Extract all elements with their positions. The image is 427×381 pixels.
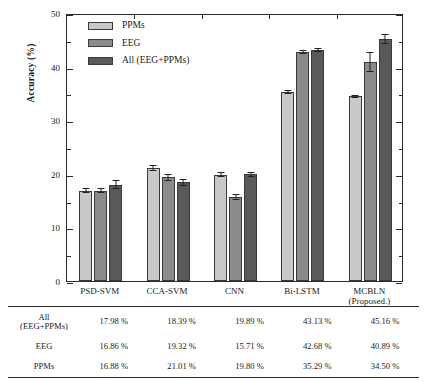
bar: [379, 39, 392, 281]
axis-tick: [67, 283, 73, 284]
error-bar: [311, 48, 324, 52]
axis-tick: [396, 229, 402, 230]
axis-tick: [399, 42, 403, 43]
legend-item[interactable]: EEG: [88, 37, 189, 51]
legend-swatch: [88, 57, 113, 65]
table-cell: 16.88 %: [80, 357, 148, 378]
table-cell: 17.98 %: [80, 307, 148, 337]
legend-item[interactable]: PPMs: [88, 19, 189, 33]
bar: [162, 177, 175, 281]
error-bar: [94, 188, 107, 193]
axis-tick: [67, 122, 73, 123]
legend-label: PPMs: [122, 21, 145, 30]
error-bar-cap: [299, 50, 306, 51]
chart-legend: PPMsEEGAll (EEG+PPMs): [88, 19, 189, 72]
axis-tick: [67, 42, 71, 43]
error-bar-cap: [180, 185, 187, 186]
error-bar-cap: [217, 172, 224, 173]
error-bar: [364, 52, 377, 72]
table-cell: 19.89 %: [216, 307, 284, 337]
error-bar-cap: [284, 93, 291, 94]
error-bar: [79, 188, 92, 194]
y-tick-label: 0: [36, 278, 60, 286]
error-bar: [214, 172, 227, 177]
legend-label: EEG: [122, 39, 140, 48]
error-bar-cap: [367, 52, 374, 53]
error-bar-cap: [82, 192, 89, 193]
table-cell: 19.80 %: [216, 357, 284, 378]
bar: [244, 174, 257, 281]
table-cell: 16.86 %: [80, 337, 148, 357]
error-bar: [229, 194, 242, 200]
y-tick-label: 40: [36, 64, 60, 72]
error-bar: [281, 90, 294, 94]
error-bar-cap: [382, 34, 389, 35]
error-bar-cap: [150, 165, 157, 166]
axis-tick: [396, 15, 402, 16]
error-bar-cap: [314, 51, 321, 52]
y-tick-label: 10: [36, 224, 60, 232]
error-bar-cap: [165, 174, 172, 175]
axis-tick: [396, 176, 402, 177]
error-bar-cap: [97, 188, 104, 189]
error-bar: [162, 174, 175, 180]
y-tick-label: 20: [36, 171, 60, 179]
table-cell: 34.50 %: [351, 357, 419, 378]
error-bar-cap: [180, 179, 187, 180]
axis-tick: [399, 203, 403, 204]
error-bar-cap: [232, 199, 239, 200]
axis-tick: [67, 203, 71, 204]
table-row: All(EEG+PPMs)17.98 %18.39 %19.89 %43.13 …: [8, 307, 419, 337]
axis-tick: [399, 95, 403, 96]
table-row: EEG16.86 %19.32 %15.71 %42.68 %40.89 %: [8, 337, 419, 357]
bar: [109, 185, 122, 281]
bar: [214, 175, 227, 281]
axis-tick: [337, 15, 338, 19]
error-bar-cap: [314, 48, 321, 49]
error-bar: [147, 165, 160, 171]
error-bar: [296, 50, 309, 54]
table-row: PPMs16.88 %21.01 %19.80 %35.29 %34.50 %: [8, 357, 419, 378]
error-bar-cap: [217, 176, 224, 177]
error-bar-cap: [284, 90, 291, 91]
axis-tick: [67, 69, 73, 70]
table-cell: 43.13 %: [283, 307, 351, 337]
table-row-label: EEG: [8, 337, 80, 357]
error-bar-cap: [97, 192, 104, 193]
error-bar: [349, 95, 362, 98]
x-category-label-line: (Proposed.): [326, 296, 412, 306]
legend-swatch: [88, 39, 113, 47]
bar: [177, 182, 190, 281]
axis-tick: [67, 15, 73, 16]
y-tick-label: 30: [36, 117, 60, 125]
axis-tick: [396, 69, 402, 70]
error-bar-line: [370, 52, 371, 72]
axis-tick: [399, 149, 403, 150]
error-bar-cap: [382, 43, 389, 44]
y-tick-label: 50: [36, 10, 60, 18]
legend-item[interactable]: All (EEG+PPMs): [88, 54, 189, 68]
axis-tick: [67, 149, 71, 150]
legend-label: All (EEG+PPMs): [122, 56, 189, 65]
legend-swatch: [88, 22, 113, 30]
x-category-label-line: MCBLN: [326, 286, 412, 296]
error-bar-cap: [232, 194, 239, 195]
error-bar-cap: [299, 53, 306, 54]
error-bar-cap: [165, 180, 172, 181]
error-bar: [244, 172, 257, 176]
bar: [349, 96, 362, 281]
data-table-wrap: All(EEG+PPMs)17.98 %18.39 %19.89 %43.13 …: [0, 306, 427, 378]
error-bar: [109, 180, 122, 189]
axis-tick: [202, 15, 203, 19]
bar-chart: Accuracy (%) 01020304050 PPMsEEGAll (EEG…: [0, 0, 427, 300]
bar: [79, 191, 92, 281]
table-row-label-line: PPMs: [8, 362, 80, 372]
axis-tick: [399, 256, 403, 257]
table-row-label-line: (EEG+PPMs): [8, 322, 80, 332]
axis-tick: [67, 256, 71, 257]
table-cell: 15.71 %: [216, 337, 284, 357]
table-row-label-line: EEG: [8, 342, 80, 352]
error-bar-cap: [112, 188, 119, 189]
bar: [147, 168, 160, 281]
table-cell: 19.32 %: [148, 337, 216, 357]
